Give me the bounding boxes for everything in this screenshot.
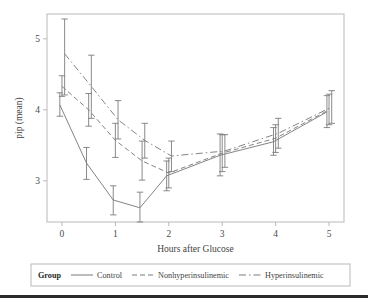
legend-title: Group [38, 271, 62, 280]
legend-label-control: Control [97, 271, 123, 280]
y-axis-title: pip (mean) [14, 97, 25, 138]
x-tick-label-2: 2 [166, 229, 171, 239]
chart-canvas: 012345345Hours after Glucosepip (mean)Gr… [0, 0, 368, 302]
y-tick-label-5: 5 [35, 34, 40, 44]
series-line-hyperinsulinemic [65, 54, 332, 156]
legend-label-nonhyperinsulinemic: Nonhyperinsulinemic [158, 271, 229, 280]
footer-rule [0, 295, 368, 298]
x-axis-title: Hours after Glucose [157, 244, 234, 254]
legend-label-hyperinsulinemic: Hyperinsulinemic [265, 271, 324, 280]
x-tick-label-1: 1 [113, 229, 118, 239]
y-tick-label-4: 4 [35, 105, 40, 115]
series-control [57, 93, 330, 222]
series-line-control [60, 105, 327, 208]
series-hyperinsulinemic [61, 19, 334, 172]
x-tick-label-5: 5 [327, 229, 332, 239]
x-tick-label-0: 0 [60, 229, 65, 239]
x-tick-label-4: 4 [273, 229, 278, 239]
x-tick-label-3: 3 [220, 229, 225, 239]
y-tick-label-3: 3 [35, 176, 40, 186]
chart-figure: 012345345Hours after Glucosepip (mean)Gr… [0, 0, 368, 302]
